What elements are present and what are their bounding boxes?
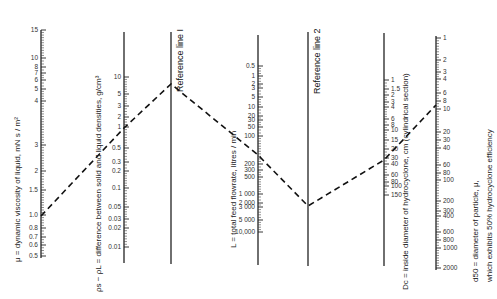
tick-label: 0.8 [29, 224, 38, 231]
tick-label: 2 [117, 113, 121, 120]
tick-label: 15 [31, 26, 39, 33]
tick-label: 600 [443, 228, 454, 235]
tick-label: 40 [443, 144, 451, 151]
tick-label: 0.2 [112, 167, 121, 174]
tick-label: 60 [443, 161, 451, 168]
tick-label: 10 [31, 54, 39, 61]
tick-label: 0.3 [112, 158, 121, 165]
tick-label: 800 [443, 236, 454, 243]
tick-label: 1.5 [29, 186, 38, 193]
tick-label: 10,000 [235, 228, 255, 235]
tick-label: 400 [443, 212, 454, 219]
tick-label: 1.0 [29, 211, 38, 218]
tick-label: 6 [34, 76, 38, 83]
tick-label: 3 [251, 84, 255, 91]
tick-label: 10 [114, 73, 122, 80]
d50-axis-subtitle: which exhibits 50% hydrocyclone efficien… [485, 129, 494, 283]
tick-label: 6 [443, 89, 447, 96]
tick-label: 2 [391, 91, 395, 98]
tick-label: 4 [34, 97, 38, 104]
tick-label: 0.6 [29, 241, 38, 248]
tick-label: 10 [391, 126, 399, 133]
tick-label: 0.02 [108, 224, 121, 231]
tick-label: 100 [244, 132, 255, 139]
tick-label: 300 [244, 166, 255, 173]
tick-label: 0.05 [108, 203, 121, 210]
tick-label: 3 [443, 68, 447, 75]
tick-label: 0.5 [246, 62, 255, 69]
tick-label: 8 [443, 97, 447, 104]
tick-label: 5 [251, 93, 255, 100]
tick-label: 500 [244, 173, 255, 180]
tick-label: 1000 [443, 244, 458, 251]
tick-label: 0.5 [112, 144, 121, 151]
tick-label: 1 [117, 123, 121, 130]
tick-label: 5 [34, 85, 38, 92]
tick-label: 0.1 [112, 184, 121, 191]
reference-line-2-title: Reference line 2 [312, 28, 322, 94]
mu-axis: 151087654321.51.00.80.70.60.5 [29, 26, 46, 259]
tick-label: 30 [443, 136, 451, 143]
tick-label: 5 [117, 90, 121, 97]
density_diff-axis: 1053210.50.30.20.10.050.030.020.01 [108, 32, 129, 263]
d50-axis: 1234681020304060801002003004006008001000… [436, 34, 458, 271]
tick-label: 1 [443, 34, 447, 41]
tick-label: 7 [34, 69, 38, 76]
tick-label: 0.7 [29, 233, 38, 240]
tick-label: 0.01 [108, 243, 121, 250]
tick-label: 15 [391, 136, 399, 143]
nomograph: 151087654321.51.00.80.70.60.51053210.50.… [0, 0, 497, 299]
tick-label: 1 [391, 76, 395, 83]
density-axis-title: ρs − ρL = difference between solid and l… [94, 75, 103, 292]
dc-axis-title: Dc = inside diameter of hydrocyclone, cm… [401, 73, 410, 290]
tick-label: 10 [443, 105, 451, 112]
tick-label: 1 000 [239, 190, 256, 197]
tick-label: 50 [248, 123, 256, 130]
tick-label: 5 000 [239, 216, 256, 223]
tick-label: 2000 [443, 264, 458, 271]
tick-label: 1 [251, 72, 255, 79]
tick-label: 0.5 [29, 252, 38, 259]
tick-label: 4 [391, 103, 395, 110]
flowrate-axis-title: L = total feed flowrate, litres / min [229, 131, 238, 248]
tick-label: 3 [117, 102, 121, 109]
tick-label: 20 [443, 128, 451, 135]
tick-label: 100 [443, 176, 454, 183]
tick-label: 60 [391, 171, 399, 178]
tick-label: 3 [34, 141, 38, 148]
tick-label: 10 [248, 103, 256, 110]
tick-label: 30 [248, 116, 256, 123]
tick-label: 80 [443, 169, 451, 176]
tick-label: 2 [443, 56, 447, 63]
mu-axis-title: μ = dynamic viscosity of liquid, mN s / … [13, 117, 22, 262]
flowrate-axis: 0.51235102030501002003005001 0002 0003 0… [235, 35, 263, 265]
reference-line-1-title: Reference line I [175, 29, 185, 92]
tick-label: 200 [443, 197, 454, 204]
tick-label: 3 000 [239, 203, 256, 210]
tick-label: 0.03 [108, 215, 121, 222]
tick-label: 4 [443, 75, 447, 82]
d50-axis-title: d50 = diameter of particle, μ, [471, 180, 480, 282]
tick-label: 40 [391, 160, 399, 167]
tick-label: 2 [34, 167, 38, 174]
